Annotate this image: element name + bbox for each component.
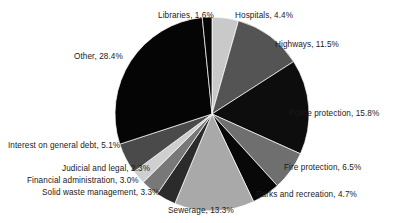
slice-label-other: Other, 28.4% — [74, 52, 123, 62]
slice-label-financial-administration: Financial administration, 3.0% — [27, 176, 139, 186]
slice-label-solid-waste-management: Solid waste management, 3.3% — [42, 188, 159, 198]
slice-label-interest-on-general-debt: Interest on general debt, 5.1% — [8, 141, 120, 151]
pie-chart-page: Libraries, 1.6% Hospitals, 4.4% Highways… — [0, 0, 408, 223]
slice-label-parks-and-recreation: Parks and recreation, 4.7% — [256, 190, 357, 200]
slice-label-libraries: Libraries, 1.6% — [158, 11, 214, 21]
slice-label-hospitals: Hospitals, 4.4% — [235, 11, 293, 21]
slice-label-sewerage: Sewerage, 13.3% — [168, 206, 234, 216]
slice-label-judicial-and-legal: Judicial and legal, 2.3% — [62, 164, 150, 174]
slice-label-police-protection: Police protection, 15.8% — [289, 109, 379, 119]
slice-label-highways: Highways, 11.5% — [275, 40, 339, 50]
slice-label-fire-protection: Fire protection, 6.5% — [284, 163, 361, 173]
